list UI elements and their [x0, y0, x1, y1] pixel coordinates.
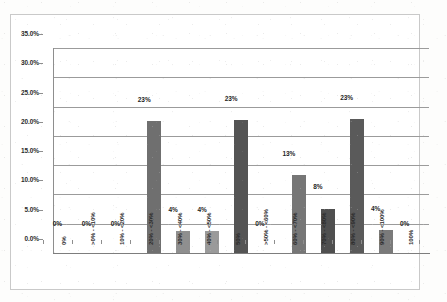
- bar-value-label: 4%: [362, 205, 390, 212]
- y-axis-tick: [38, 180, 43, 181]
- x-axis-tick: [43, 240, 44, 244]
- y-axis-tick: [38, 239, 43, 240]
- x-axis-tick: [159, 240, 160, 244]
- x-axis-tick: [72, 240, 73, 244]
- x-axis-tick: [361, 240, 362, 244]
- gridline: [53, 48, 429, 49]
- y-axis-tick: [38, 93, 43, 94]
- x-axis-category-label: 30% - <40%: [176, 213, 183, 245]
- bar-value-label: 13%: [275, 150, 303, 157]
- y-axis-tick-label: 10.0%: [11, 176, 39, 183]
- x-axis-tick: [274, 240, 275, 244]
- y-axis-tick: [38, 151, 43, 152]
- x-axis-category-label: 0%: [60, 236, 67, 245]
- bar-value-label: 0%: [101, 220, 129, 227]
- bar-value-label: 0%: [43, 220, 71, 227]
- x-axis-category-label: >50% - <60%: [262, 209, 269, 245]
- x-axis-tick: [419, 240, 420, 244]
- x-axis-category-label: 60% - <70%: [291, 213, 298, 245]
- x-axis-category-label: 80% - <90%: [349, 213, 356, 245]
- bar-value-label: 0%: [72, 220, 100, 227]
- y-axis-tick: [38, 122, 43, 123]
- scanned-page: 0.0%5.0%10.0%15.0%20.0%25.0%30.0%35.0% 0…: [0, 0, 447, 302]
- y-axis-tick-label: 25.0%: [11, 89, 39, 96]
- chart-frame: 0.0%5.0%10.0%15.0%20.0%25.0%30.0%35.0% 0…: [10, 14, 420, 290]
- y-axis-tick-label: 0.0%: [11, 235, 39, 242]
- y-axis-labels: 0.0%5.0%10.0%15.0%20.0%25.0%30.0%35.0%: [11, 15, 51, 302]
- bar-value-label: 23%: [217, 95, 245, 102]
- y-axis-tick-label: 35.0%: [11, 30, 39, 37]
- bar-value-label: 8%: [304, 183, 332, 190]
- x-axis-tick: [188, 240, 189, 244]
- x-axis-category-label: 100%: [407, 230, 414, 245]
- y-axis-tick-label: 30.0%: [11, 59, 39, 66]
- x-axis-category-label: 90% - <100%: [378, 209, 385, 245]
- bar-value-label: 4%: [159, 206, 187, 213]
- x-axis-category-label: 70% - <80%: [320, 213, 327, 245]
- y-axis-tick: [38, 34, 43, 35]
- bar-value-label: 0%: [391, 220, 419, 227]
- x-axis-line: [53, 253, 430, 254]
- x-axis-tick: [245, 240, 246, 244]
- x-axis-tick: [217, 240, 218, 244]
- bar-value-label: 23%: [130, 96, 158, 103]
- x-axis-tick: [303, 240, 304, 244]
- x-axis-category-label: 20% - <30%: [147, 213, 154, 245]
- x-axis-tick: [101, 240, 102, 244]
- gridline: [53, 77, 429, 78]
- bar-value-label: 23%: [333, 94, 361, 101]
- gridline: [53, 107, 429, 108]
- bar-value-label: 0%: [246, 220, 274, 227]
- x-axis-tick: [332, 240, 333, 244]
- y-axis-tick: [38, 63, 43, 64]
- x-axis-category-label: 50%: [234, 233, 241, 245]
- x-axis-category-label: >0% - <10%: [89, 212, 96, 245]
- x-axis-tick: [390, 240, 391, 244]
- bar-value-label: 4%: [188, 206, 216, 213]
- y-axis-tick: [38, 210, 43, 211]
- x-axis-category-label: 10% - <20%: [118, 213, 125, 245]
- x-axis-tick: [130, 240, 131, 244]
- y-axis-tick-label: 5.0%: [11, 206, 39, 213]
- y-axis-tick-label: 15.0%: [11, 147, 39, 154]
- x-axis-category-label: 40% - <50%: [205, 213, 212, 245]
- y-axis-tick-label: 20.0%: [11, 118, 39, 125]
